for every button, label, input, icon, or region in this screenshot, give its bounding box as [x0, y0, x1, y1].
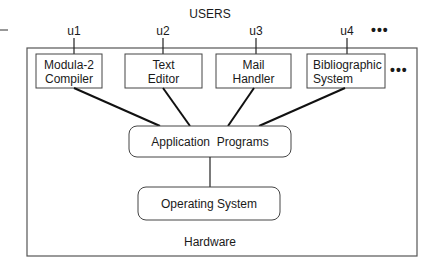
more-users-ellipsis: •••: [371, 22, 389, 38]
module-4-line2: System: [313, 72, 353, 86]
module-text-1: Modula-2 Compiler: [36, 55, 102, 88]
module-2-line2: Editor: [125, 72, 202, 86]
user-label-2: u2: [153, 24, 173, 38]
module-link-3: [228, 88, 254, 126]
module-3-line2: Handler: [216, 72, 291, 86]
module-link-4: [259, 88, 345, 126]
user-label-1: u1: [64, 24, 84, 38]
more-modules-ellipsis: •••: [390, 62, 408, 78]
os-label: Operating System: [138, 187, 280, 220]
module-1-line2: Compiler: [36, 72, 102, 86]
module-link-2: [163, 88, 190, 126]
user-label-3: u3: [246, 24, 266, 38]
application-label: Application Programs: [129, 126, 291, 157]
module-2-line1: Text: [125, 58, 202, 72]
module-4-line1: Bibliographic: [313, 58, 382, 72]
module-text-2: Text Editor: [125, 55, 202, 88]
module-text-4: Bibliographic System: [307, 55, 385, 88]
user-label-4: u4: [337, 24, 357, 38]
hardware-label: Hardware: [170, 235, 250, 249]
module-1-line1: Modula-2: [36, 58, 102, 72]
module-link-1: [74, 88, 160, 126]
module-text-3: Mail Handler: [216, 55, 291, 88]
module-3-line1: Mail: [216, 58, 291, 72]
users-title: USERS: [180, 7, 240, 21]
